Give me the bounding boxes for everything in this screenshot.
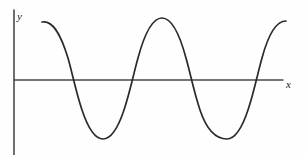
- plot-svg: [0, 0, 306, 155]
- x-axis-label: x: [286, 79, 291, 90]
- y-axis-label: y: [17, 11, 22, 22]
- figure-canvas: y x: [0, 0, 306, 155]
